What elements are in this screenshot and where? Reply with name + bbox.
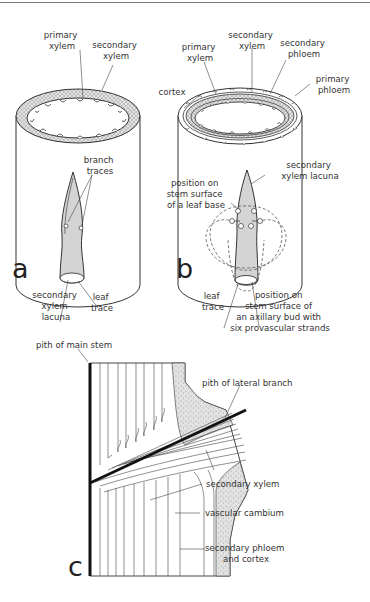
stem-anatomy-diagram: primary xylem secondary xylem branch tra… [0,0,370,602]
label-b-secondary-phloem: secondary phloem [280,38,327,59]
label-a-branch-traces: branch traces [84,155,117,176]
label-b-primary-xylem: primary xylem [182,42,218,63]
label-b-cortex: cortex [158,87,185,97]
label-b-primary-phloem: primary phloem [316,74,352,95]
label-a-secondary-xylem: secondary xylem [92,40,139,61]
label-b-leaf-trace: leaf trace [202,291,224,312]
panel-a: primary xylem secondary xylem branch tra… [12,30,140,322]
label-a-leaf-trace: leaf trace [91,292,113,313]
panel-letter-c: c [68,551,83,582]
label-c-secondary-xylem: secondary xylem [206,479,279,489]
label-c-pith-lateral-branch: pith of lateral branch [202,378,293,388]
label-c-pith-main-stem: pith of main stem [36,340,112,350]
label-b-leaf-base-position: position on stem surface of a leaf base [167,178,226,210]
label-b-secondary-xylem: secondary xylem [228,30,275,51]
label-a-primary-xylem: primary xylem [44,30,80,51]
panel-letter-a: a [12,253,29,284]
panel-b: primary xylem secondary xylem secondary … [158,30,352,333]
panel-c: pith of main stem pith of lateral branch… [36,340,293,582]
label-b-secondary-xylem-lacuna: secondary xylem lacuna [281,160,339,181]
label-c-vascular-cambium: vascular cambium [205,508,284,518]
panel-letter-b: b [176,253,193,284]
